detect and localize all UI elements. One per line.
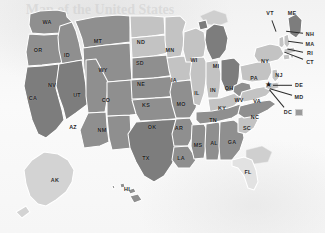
state-label-ks: KS: [142, 102, 150, 108]
state-label-in: IN: [210, 87, 216, 93]
state-label-tx: TX: [142, 155, 149, 161]
callout-label-dc: DC: [284, 109, 292, 115]
us-states-svg: WashingtonOregonIdahoMontanaWyomingCalif…: [0, 0, 325, 233]
state-ak[interactable]: Alaska: [16, 152, 74, 218]
callout-label-nj: NJ: [275, 72, 282, 78]
callout-label-ri: RI: [307, 50, 313, 56]
state-label-wy: WY: [98, 67, 107, 73]
callout-label-ct: CT: [306, 59, 314, 65]
state-label-id: ID: [64, 52, 70, 58]
callout-label-me: ME: [288, 10, 297, 16]
state-label-nd: ND: [137, 39, 145, 45]
state-label-sc: SC: [243, 125, 251, 131]
state-label-pa: PA: [250, 75, 258, 81]
state-mt[interactable]: Montana: [75, 15, 130, 48]
state-label-fl: FL: [244, 169, 251, 175]
state-label-il: IL: [194, 90, 199, 96]
dc-star-icon: ★: [265, 81, 272, 89]
state-label-mn: MN: [166, 47, 175, 53]
state-label-ny: NY: [261, 58, 269, 64]
state-label-nm: NM: [98, 127, 107, 133]
state-label-hi: HI: [124, 186, 130, 192]
state-ct[interactable]: Connecticut: [283, 54, 290, 60]
state-label-sd: SD: [136, 60, 144, 66]
state-label-ok: OK: [148, 124, 157, 130]
callout-label-vt: VT: [266, 10, 273, 16]
state-label-mt: MT: [94, 38, 102, 44]
state-label-al: AL: [210, 140, 218, 146]
state-label-wa: WA: [42, 19, 51, 25]
state-label-co: CO: [102, 97, 111, 103]
state-label-ia: IA: [171, 77, 177, 83]
state-label-or: OR: [34, 47, 43, 53]
state-label-oh: OH: [225, 85, 234, 91]
state-label-ak: AK: [51, 177, 59, 183]
dc-color-swatch: [295, 109, 303, 116]
us-map-figure: Map of the United States WashingtonOrego…: [0, 0, 325, 233]
callout-label-de: DE: [295, 82, 303, 88]
state-label-nv: NV: [48, 82, 56, 88]
callout-label-nh: NH: [306, 31, 314, 37]
state-label-tn: TN: [209, 117, 217, 123]
callout-label-ma: MA: [306, 41, 315, 47]
state-label-ky: KY: [218, 105, 226, 111]
state-label-ga: GA: [228, 139, 237, 145]
state-label-wi: WI: [190, 57, 197, 63]
state-me[interactable]: Maine: [288, 14, 302, 38]
state-nm[interactable]: New Mexico: [107, 115, 132, 150]
state-label-ut: UT: [73, 92, 81, 98]
state-label-wv: WV: [234, 97, 243, 103]
callout-label-md: MD: [295, 94, 304, 100]
state-label-ne: NE: [137, 81, 145, 87]
leader-line-de: [273, 85, 292, 86]
state-label-nc: NC: [251, 114, 259, 120]
state-label-az: AZ: [69, 124, 77, 130]
state-label-ca: CA: [29, 95, 37, 101]
state-label-va: VA: [253, 98, 261, 104]
state-label-ar: AR: [175, 125, 183, 131]
state-label-mo: MO: [176, 101, 185, 107]
state-label-la: LA: [177, 155, 185, 161]
state-label-mi: MI: [213, 63, 220, 69]
state-nd[interactable]: North Dakota: [130, 16, 165, 38]
state-label-ms: MS: [194, 142, 203, 148]
